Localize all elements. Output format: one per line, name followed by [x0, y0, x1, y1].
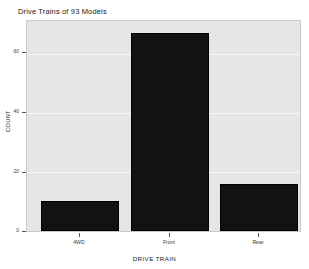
x-tick-label-4wd: 4WD [54, 239, 104, 245]
y-tick-mark-0 [22, 231, 26, 232]
x-tick-label-rear: Rear [233, 239, 283, 245]
plot-panel [26, 20, 301, 232]
y-tick-label-0: 0 [2, 227, 19, 233]
y-axis-title: COUNT [5, 101, 11, 141]
x-tick-label-front: Front [144, 239, 194, 245]
x-tick-mark-4wd [79, 233, 80, 237]
y-tick-mark-60 [22, 52, 26, 53]
bar-4wd[interactable] [41, 201, 119, 231]
bar-front[interactable] [131, 33, 209, 231]
bar-rear[interactable] [220, 184, 298, 231]
chart-title: Drive Trains of 93 Models [18, 7, 107, 16]
x-tick-mark-front [169, 233, 170, 237]
y-tick-label-60: 60 [2, 48, 19, 54]
y-tick-mark-20 [22, 172, 26, 173]
y-tick-mark-40 [22, 112, 26, 113]
x-axis-title: DRIVE TRAIN [0, 255, 309, 262]
chart-screenshot: Drive Trains of 93 Models 60 40 20 0 4WD… [0, 0, 309, 269]
x-tick-mark-rear [258, 233, 259, 237]
y-tick-label-20: 20 [2, 168, 19, 174]
